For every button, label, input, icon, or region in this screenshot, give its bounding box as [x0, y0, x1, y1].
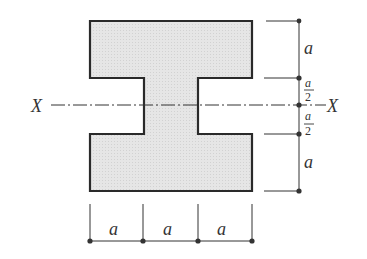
axis-label-left: X — [30, 96, 43, 116]
svg-text:a: a — [305, 109, 311, 123]
axis-label-right: X — [326, 96, 339, 116]
dim-top-flange-label: a — [304, 38, 313, 58]
i-section-diagram: X X a a 2 a 2 a a a — [0, 0, 367, 259]
dim-web-width-label: a — [163, 219, 172, 239]
dim-left-overhang-label: a — [109, 219, 118, 239]
dim-lower-web-half-label: a 2 — [304, 109, 314, 138]
dim-right-overhang-label: a — [217, 219, 226, 239]
dim-bottom-flange-label: a — [304, 152, 313, 172]
svg-text:2: 2 — [305, 124, 311, 138]
dim-upper-web-half-label: a 2 — [304, 76, 314, 104]
svg-text:a: a — [305, 76, 311, 90]
i-section-shape — [90, 21, 252, 191]
vertical-dimension — [264, 21, 299, 191]
svg-text:2: 2 — [305, 90, 311, 104]
